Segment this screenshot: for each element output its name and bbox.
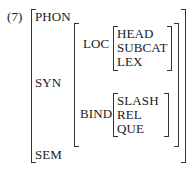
feature-slash: SLASH: [117, 94, 159, 108]
feature-head: HEAD: [117, 27, 154, 41]
outer-right-bracket: [181, 9, 186, 163]
bind-right-bracket: [164, 93, 169, 137]
feature-rel: REL: [117, 108, 142, 122]
syn-left-bracket: [74, 23, 79, 147]
feature-que: QUE: [117, 122, 144, 136]
feature-syn: SYN: [35, 76, 61, 90]
feature-bind: BIND: [80, 107, 112, 121]
example-number: (7): [7, 10, 22, 24]
feature-subcat: SUBCAT: [117, 41, 167, 55]
feature-phon: PHON: [35, 10, 71, 24]
loc-right-bracket: [167, 26, 172, 71]
syn-right-bracket: [174, 23, 179, 147]
feature-loc: LOC: [83, 37, 109, 51]
feature-lex: LEX: [117, 55, 143, 69]
feature-sem: SEM: [35, 148, 62, 162]
